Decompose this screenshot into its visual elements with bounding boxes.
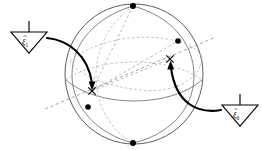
meridian-front-left bbox=[72, 6, 133, 143]
pennant-subscript-xi-1: 1 bbox=[25, 42, 28, 48]
node-dot-upper-right bbox=[175, 38, 181, 44]
sphere-diagram-canvas: ~ ξ1 ~ ξ0 bbox=[0, 0, 262, 150]
chord-top-node-to-left-marker bbox=[92, 6, 133, 91]
pennant-xi-0[interactable]: ~ ξ0 bbox=[222, 94, 258, 126]
pennant-body-xi-1 bbox=[11, 32, 47, 53]
pennant-subscript-xi-0: 0 bbox=[236, 115, 239, 121]
chord-left-marker-to-right-marker bbox=[92, 59, 170, 91]
node-dot-top bbox=[130, 3, 136, 9]
node-dot-bottom bbox=[130, 140, 136, 146]
figure-root: ~ ξ1 ~ ξ0 bbox=[0, 0, 262, 150]
pennant-xi-1[interactable]: ~ ξ1 bbox=[11, 21, 47, 53]
pennant-body-xi-0 bbox=[222, 105, 258, 126]
sphere-outline bbox=[65, 4, 203, 144]
node-dot-lower-left bbox=[85, 104, 91, 110]
arrow-to-left-marker bbox=[47, 38, 92, 83]
